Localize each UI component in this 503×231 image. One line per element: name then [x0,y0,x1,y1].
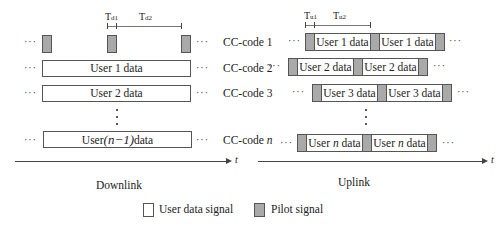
ellipsis-left: ··· [268,60,281,71]
vertical-ellipsis-dot [116,116,118,118]
user-data-block: User 1 data [379,33,436,51]
timing-tick [181,23,182,29]
code-var: n [267,134,273,146]
user-data-block: User n data [371,134,428,152]
user-data-block: User 1 data [314,33,371,51]
pilot-block [42,35,52,53]
vertical-ellipsis-dot [365,116,367,118]
timing-tick [305,22,306,28]
legend-user-data-label: User data signal [159,203,233,215]
ellipsis-left: ··· [292,86,305,97]
pilot-block [418,58,428,76]
timing-tick [116,23,117,29]
ellipsis-left: ··· [24,36,37,47]
user-data-block: User 2 data [42,85,191,102]
timing-sub: u1 [310,13,317,21]
timing-sub: d1 [111,14,118,22]
ellipsis-right: ··· [433,60,446,71]
cc-code-label: CC-code 1 [223,36,273,48]
data-label-prefix: User [82,134,104,146]
user-data-block: User 2 data [362,58,419,76]
legend-pilot-label: Pilot signal [271,203,323,215]
legend-pilot-swatch [254,203,265,217]
axis-label-t: t [235,154,238,165]
timing-label-td1: Td1 [105,11,118,22]
data-label-suffix: data [339,137,361,149]
ellipsis-left: ··· [24,62,37,73]
cc-code-label: CC-code 2 [223,62,273,74]
arrow-right-icon [226,158,232,164]
timing-label-td2: Td2 [139,11,152,22]
data-label-var: (n−1) [104,132,134,147]
time-axis [258,161,484,162]
cc-code-label: CC-code n [223,134,273,146]
ellipsis-right: ··· [196,87,209,98]
time-axis [15,161,228,162]
code-prefix: CC-code [223,134,267,146]
ellipsis-right: ··· [196,134,209,145]
ellipsis-right: ··· [196,62,209,73]
vertical-ellipsis-dot [365,109,367,111]
data-label-suffix: data [134,134,153,146]
pilot-block [181,35,191,53]
data-label-prefix: User [308,137,333,149]
legend-user-data-swatch [143,203,154,217]
ellipsis-right: ··· [457,86,470,97]
pilot-block [442,84,452,102]
vertical-ellipsis-dot [365,123,367,125]
ellipsis-left: ··· [280,137,293,148]
timing-label-tu2: Tu2 [333,10,346,21]
ellipsis-right: ··· [449,35,462,46]
uplink-title: Uplink [338,176,370,188]
data-label-prefix: User [373,137,398,149]
axis-label-t: t [491,154,494,165]
user-data-block: User 3 data [321,84,378,102]
timing-tick [314,22,315,28]
timing-tick [370,22,371,28]
user-data-block: User 2 data [297,58,354,76]
ellipsis-right: ··· [442,137,455,148]
user-data-block: User(n−1)data [43,131,192,148]
ellipsis-left: ··· [288,35,301,46]
cc-code-label: CC-code 3 [223,87,273,99]
timing-sub: d2 [145,14,152,22]
user-data-block: User n data [306,134,363,152]
user-data-block: User 3 data [386,84,443,102]
timing-sub: u2 [339,13,346,21]
data-label-suffix: data [404,137,426,149]
timing-tick [107,23,108,29]
ellipsis-left: ··· [24,87,37,98]
ellipsis-right: ··· [196,36,209,47]
timing-label-tu1: Tu1 [304,10,317,21]
arrow-right-icon [482,158,488,164]
user-data-block: User 1 data [42,60,191,77]
vertical-ellipsis-dot [116,123,118,125]
timing-bracket [107,26,182,27]
pilot-block [427,134,437,152]
pilot-block [107,35,117,53]
pilot-block [435,33,445,51]
vertical-ellipsis-dot [116,109,118,111]
downlink-title: Downlink [96,179,142,191]
ellipsis-left: ··· [24,134,37,145]
